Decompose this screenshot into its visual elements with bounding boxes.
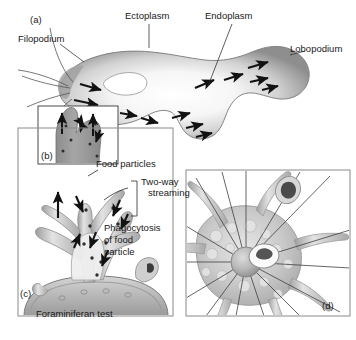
prey-organism-upper <box>281 182 296 199</box>
panel-b-label: (b) <box>41 150 53 161</box>
figure-container: (a) Filopodium Ectoplasm Endoplasm Lobop… <box>0 0 356 340</box>
label-food-particles: Food particles <box>96 158 156 169</box>
label-phagocytosis-line3: particle <box>104 246 135 257</box>
label-endoplasm: Endoplasm <box>205 10 253 21</box>
label-phagocytosis-line1: Phagocytosis <box>104 222 161 233</box>
label-phagocytosis-line2: of food <box>104 234 133 245</box>
leader-filopodium <box>60 44 84 62</box>
label-foraminiferan-test: Foraminiferan test <box>36 308 113 319</box>
panel-c-label: (c) <box>20 288 31 299</box>
label-filopodium: Filopodium <box>18 33 64 44</box>
label-two-way-streaming-line2: streaming <box>148 187 190 198</box>
label-ectoplasm: Ectoplasm <box>125 10 169 21</box>
label-lobopodium: Lobopodium <box>290 43 342 54</box>
bracket-two-way <box>131 181 137 216</box>
phagocytosis-vacuole <box>71 233 104 280</box>
panel-a-label: (a) <box>30 14 42 25</box>
leader-food-particles <box>88 170 98 176</box>
panel-d-label: (d) <box>322 300 334 311</box>
label-two-way-streaming-line1: Two-way <box>141 176 178 187</box>
engulfed-food-mass <box>135 258 158 282</box>
